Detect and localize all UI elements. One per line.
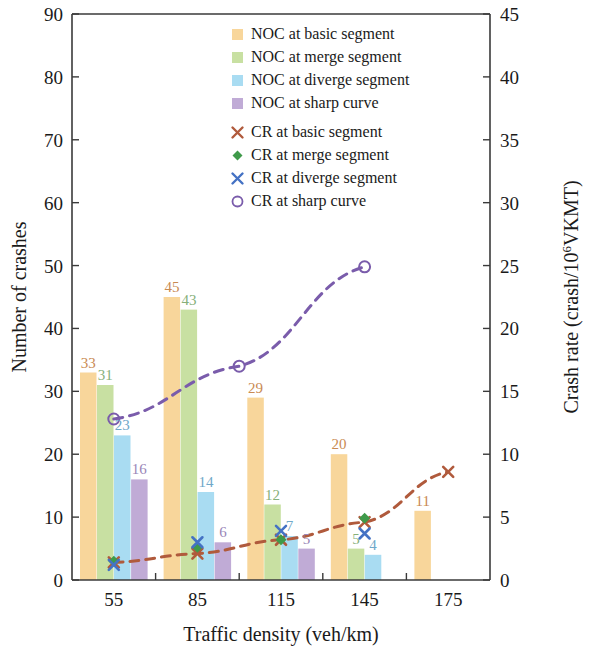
y-tick-label: 90 xyxy=(44,4,63,25)
y-tick-label: 40 xyxy=(44,318,63,339)
bar-rect xyxy=(348,549,365,580)
bar-value-label: 14 xyxy=(198,474,214,490)
y-tick-label: 50 xyxy=(44,256,63,277)
legend-item: NOC at merge segment xyxy=(232,48,402,66)
legend-item: CR at basic segment xyxy=(233,123,383,141)
y2-tick-label: 25 xyxy=(500,256,519,277)
legend-label: NOC at sharp curve xyxy=(251,94,379,112)
bar-value-label: 16 xyxy=(132,461,148,477)
bar-value-label: 29 xyxy=(248,380,263,396)
bar-value-label: 12 xyxy=(265,487,280,503)
x-tick-label: 115 xyxy=(267,589,295,610)
bar-rect xyxy=(414,511,431,580)
legend-item: NOC at basic segment xyxy=(232,25,395,43)
y2-tick-label: 20 xyxy=(500,318,519,339)
bar xyxy=(365,555,382,580)
bar-value-label: 4 xyxy=(369,537,377,553)
y2-tick-label: 40 xyxy=(500,67,519,88)
bar-value-label: 43 xyxy=(181,292,196,308)
y2-tick-label: 10 xyxy=(500,444,519,465)
bar-value-label: 6 xyxy=(219,524,227,540)
legend-label: CR at basic segment xyxy=(251,123,383,141)
y2-tick-label: 0 xyxy=(500,570,510,591)
y2-tick-label: 30 xyxy=(500,193,519,214)
legend-swatch xyxy=(232,98,243,109)
y-axis-title: Number of crashes xyxy=(8,221,30,372)
y-tick-label: 70 xyxy=(44,130,63,151)
legend-swatch xyxy=(232,75,243,86)
chart-canvas: 333123164543146291275205411 010203040506… xyxy=(0,0,600,647)
y2-tick-label: 45 xyxy=(500,4,519,25)
bar xyxy=(247,398,263,580)
bar-rect xyxy=(331,454,348,580)
bar-value-label: 45 xyxy=(164,279,179,295)
bar xyxy=(298,549,315,580)
x-tick-label: 85 xyxy=(188,589,207,610)
bar xyxy=(164,297,181,580)
y-tick-label: 0 xyxy=(54,570,64,591)
bar-value-label: 31 xyxy=(98,367,113,383)
y2-tick-label: 35 xyxy=(500,130,519,151)
bar xyxy=(348,549,365,580)
legend-label: CR at diverge segment xyxy=(251,169,397,187)
legend-label: NOC at basic segment xyxy=(251,25,395,43)
bar-rect xyxy=(247,398,263,580)
bar-value-label: 5 xyxy=(303,531,311,547)
bar-rect xyxy=(164,297,181,580)
bar-rect xyxy=(131,479,148,580)
legend-swatch xyxy=(232,52,243,63)
y2-axis-title: Crash rate (crash/106VKMT) xyxy=(559,180,584,413)
y2-tick-label: 15 xyxy=(500,381,519,402)
bar-rect xyxy=(365,555,382,580)
legend-item: NOC at sharp curve xyxy=(232,94,379,112)
bar-rect xyxy=(80,373,97,581)
y-tick-label: 60 xyxy=(44,193,63,214)
y-tick-label: 20 xyxy=(44,444,63,465)
legend-label: CR at sharp curve xyxy=(251,192,366,210)
bar xyxy=(131,479,148,580)
bar xyxy=(80,373,97,581)
x-axis-title: Traffic density (veh/km) xyxy=(183,623,379,646)
y2-tick-label: 5 xyxy=(500,507,510,528)
bar xyxy=(331,454,348,580)
x-tick-label: 175 xyxy=(434,589,463,610)
x-tick-label: 55 xyxy=(104,589,123,610)
bar-value-label: 11 xyxy=(415,493,429,509)
bar-value-label: 7 xyxy=(286,518,294,534)
legend-item: NOC at diverge segment xyxy=(232,71,410,89)
bar-value-label: 20 xyxy=(332,436,347,452)
legend-label: NOC at merge segment xyxy=(251,48,402,66)
y-tick-label: 10 xyxy=(44,507,63,528)
legend-label: NOC at diverge segment xyxy=(251,71,410,89)
legend-item: CR at sharp curve xyxy=(233,192,367,210)
legend-label: CR at merge segment xyxy=(251,146,389,164)
legend-swatch xyxy=(232,29,243,40)
bar-rect xyxy=(298,549,315,580)
bar-value-label: 33 xyxy=(81,355,96,371)
bar xyxy=(198,492,215,580)
legend-item: CR at diverge segment xyxy=(233,169,398,187)
y-tick-label: 80 xyxy=(44,67,63,88)
bar-value-label: 23 xyxy=(115,417,130,433)
bar-rect xyxy=(198,492,215,580)
y-tick-label: 30 xyxy=(44,381,63,402)
x-tick-label: 145 xyxy=(350,589,379,610)
bar xyxy=(414,511,431,580)
bar-value-label: 5 xyxy=(352,531,360,547)
legend-item: CR at merge segment xyxy=(233,146,390,164)
crash-chart-figure: 333123164543146291275205411 010203040506… xyxy=(0,0,600,647)
